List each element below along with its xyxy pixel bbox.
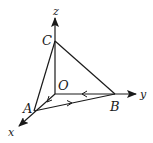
- y-axis-label: y: [139, 88, 147, 101]
- point-A-label: A: [22, 101, 32, 116]
- z-axis-label: z: [52, 5, 59, 18]
- point-C-label: C: [42, 33, 52, 48]
- point-O-label: O: [58, 78, 69, 93]
- x-axis-label: x: [8, 126, 15, 139]
- tetrahedron-diagram: z y x C O B A: [0, 0, 153, 143]
- point-B-label: B: [109, 99, 120, 114]
